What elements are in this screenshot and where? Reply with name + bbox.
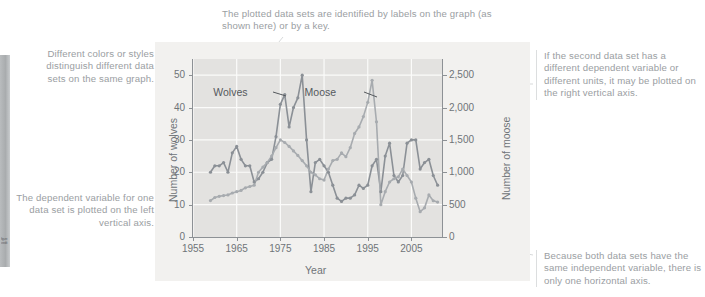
data-point [414, 197, 417, 200]
data-point [301, 159, 304, 162]
x-axis-tick-label: 1965 [219, 243, 255, 254]
data-point [427, 158, 430, 161]
data-point [226, 171, 229, 174]
data-point [231, 191, 234, 194]
data-point [336, 197, 339, 200]
tick-mark [443, 172, 447, 173]
data-point [405, 142, 408, 145]
data-point [357, 184, 360, 187]
data-point [283, 141, 286, 144]
data-point [226, 193, 229, 196]
tick-mark [443, 75, 447, 76]
data-point [410, 138, 413, 141]
tick-mark [189, 172, 193, 173]
data-point [218, 195, 221, 198]
data-point [344, 197, 347, 200]
x-axis-title: Year [305, 264, 326, 276]
data-point [213, 164, 216, 167]
data-point [257, 171, 260, 174]
annotation-right-top: If the second data set has a different d… [536, 50, 704, 100]
data-point [405, 174, 408, 177]
data-point [331, 159, 334, 162]
data-point [222, 161, 225, 164]
data-point [379, 203, 382, 206]
tick-mark [443, 205, 447, 206]
data-point [436, 200, 439, 203]
data-point [248, 164, 251, 167]
data-point [388, 180, 391, 183]
x-axis-tick-label: 2005 [393, 243, 429, 254]
data-point [371, 79, 374, 82]
data-point [253, 184, 256, 187]
data-point [257, 177, 260, 180]
data-point [371, 164, 374, 167]
x-axis-tick-label: 1985 [306, 243, 342, 254]
data-point [270, 154, 273, 157]
annotation-right-bottom: Because both data sets have the same ind… [536, 250, 705, 287]
data-point [270, 158, 273, 161]
data-point [296, 154, 299, 157]
tick-mark [237, 237, 238, 241]
margin-bar-credit: figure credit [1, 237, 9, 263]
tick-mark [443, 140, 447, 141]
series-label-wolves: Wolves [213, 86, 247, 98]
data-point [301, 74, 304, 77]
data-point [322, 164, 325, 167]
data-point [401, 174, 404, 177]
annotation-left-top: Different colors or styles distinguish d… [26, 48, 162, 85]
tick-mark [193, 237, 194, 241]
data-point [314, 161, 317, 164]
data-point [274, 135, 277, 138]
data-point [432, 199, 435, 202]
data-point [248, 185, 251, 188]
data-point [427, 193, 430, 196]
data-point [305, 138, 308, 141]
right-axis-tick-label: 0 [449, 231, 455, 242]
tick-mark [324, 237, 325, 241]
data-point [327, 167, 330, 170]
data-point [213, 196, 216, 199]
data-point [235, 145, 238, 148]
data-point [253, 180, 256, 183]
tick-mark [189, 140, 193, 141]
x-axis-tick-label: 1995 [350, 243, 386, 254]
data-point [292, 149, 295, 152]
data-point [357, 125, 360, 128]
data-point [392, 174, 395, 177]
data-point [349, 197, 352, 200]
data-point [344, 155, 347, 158]
data-point [397, 180, 400, 183]
data-point [261, 171, 264, 174]
data-point [423, 206, 426, 209]
data-point [209, 171, 212, 174]
data-point [366, 184, 369, 187]
data-point [279, 103, 282, 106]
tick-mark [443, 108, 447, 109]
tick-mark [443, 237, 447, 238]
series-label-moose: Moose [305, 86, 337, 98]
data-point [261, 165, 264, 168]
data-point [288, 125, 291, 128]
data-point [349, 146, 352, 149]
data-point [353, 132, 356, 135]
data-point [231, 151, 234, 154]
data-point [222, 194, 225, 197]
x-axis-tick-label: 1975 [262, 243, 298, 254]
tick-mark [189, 205, 193, 206]
data-point [432, 174, 435, 177]
data-point [436, 184, 439, 187]
tick-mark [189, 108, 193, 109]
chart-figure: 01020304050 05001,0001,5002,0002,500 195… [155, 42, 530, 281]
left-axis-tick-label: 50 [155, 69, 185, 80]
data-point [305, 164, 308, 167]
data-point [244, 186, 247, 189]
data-point [309, 190, 312, 193]
data-point [419, 210, 422, 213]
tick-mark [368, 237, 369, 241]
right-axis-tick-label: 1,000 [449, 166, 474, 177]
tick-mark [411, 237, 412, 241]
data-point [392, 177, 395, 180]
data-point [340, 200, 343, 203]
data-point [362, 187, 365, 190]
data-point [292, 106, 295, 109]
